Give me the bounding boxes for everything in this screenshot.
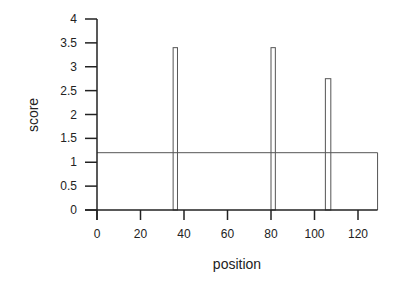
y-tick-label: 3.5 bbox=[60, 36, 77, 50]
bar-1 bbox=[271, 48, 275, 210]
plot-area bbox=[97, 48, 378, 210]
y-tick-label: 3 bbox=[70, 60, 77, 74]
bar-chart: 00.511.522.533.54020406080100120 positio… bbox=[0, 0, 397, 281]
y-tick-label: 1 bbox=[70, 155, 77, 169]
y-axis-label: score bbox=[25, 98, 41, 132]
x-tick-label: 60 bbox=[221, 227, 235, 241]
y-tick-label: 2 bbox=[70, 108, 77, 122]
y-tick-label: 1.5 bbox=[60, 131, 77, 145]
y-tick-label: 2.5 bbox=[60, 84, 77, 98]
x-tick-label: 0 bbox=[94, 227, 101, 241]
x-tick-label: 100 bbox=[304, 227, 324, 241]
x-tick-label: 40 bbox=[177, 227, 191, 241]
bar-0 bbox=[173, 48, 177, 210]
y-tick-label: 0.5 bbox=[60, 179, 77, 193]
x-tick-label: 20 bbox=[134, 227, 148, 241]
y-tick-label: 0 bbox=[70, 203, 77, 217]
threshold-line bbox=[97, 153, 378, 210]
x-tick-label: 120 bbox=[348, 227, 368, 241]
y-tick-label: 4 bbox=[70, 12, 77, 26]
bar-2 bbox=[325, 79, 330, 210]
x-axis-label: position bbox=[213, 256, 261, 272]
x-tick-label: 80 bbox=[264, 227, 278, 241]
